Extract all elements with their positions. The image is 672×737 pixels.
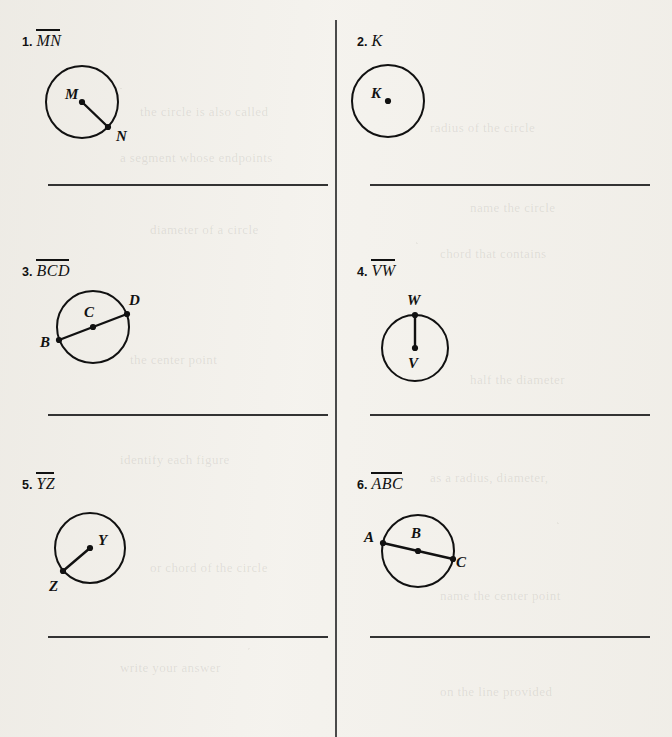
segment-name: YZ (36, 475, 55, 492)
point-label-B: B (39, 334, 50, 350)
circle-figure-5: YZ (30, 503, 165, 615)
segment-name: BCD (36, 262, 70, 279)
point-dot-Z (60, 568, 66, 574)
showthrough-text: chord that contains (440, 246, 547, 262)
point-label-K: K (370, 85, 382, 101)
problem-label-4: 4.VW (357, 262, 396, 280)
point-dot-A (380, 540, 386, 546)
point-dot-M (79, 99, 85, 105)
answer-line-4[interactable] (370, 414, 650, 416)
point-label-Y: Y (98, 532, 109, 548)
showthrough-text: write your answer (120, 660, 221, 676)
point-label-M: M (64, 86, 79, 102)
problem-label-5: 5.YZ (22, 475, 55, 493)
point-label-B: B (410, 525, 421, 541)
showthrough-text: name the circle (470, 200, 555, 216)
showthrough-text: identify each figure (120, 452, 230, 468)
problem-number: 1. (22, 35, 32, 49)
point-dot-D (124, 311, 130, 317)
answer-line-1[interactable] (48, 184, 328, 186)
point-dot-Y (87, 545, 93, 551)
segment-name: VW (371, 262, 395, 279)
answer-line-5[interactable] (48, 636, 328, 638)
point-dot-W (412, 312, 418, 318)
showthrough-text: as a radius, diameter, (430, 470, 548, 486)
problem-number: 2. (357, 35, 367, 49)
circle-figure-1: MN (30, 55, 160, 165)
point-label-Z: Z (48, 578, 58, 594)
circle-figure-3: BCD (30, 285, 170, 397)
point-dot-V (412, 345, 418, 351)
problem-label-3: 3.BCD (22, 262, 70, 280)
point-dot-K (385, 98, 391, 104)
point-label-W: W (407, 292, 422, 308)
showthrough-text: diameter of a circle (150, 222, 259, 238)
circle-figure-2: K (350, 55, 480, 165)
point-label-D: D (128, 292, 140, 308)
point-dot-B (56, 337, 62, 343)
answer-line-2[interactable] (370, 184, 650, 186)
problem-label-2: 2.K (357, 32, 383, 50)
point-dot-B (415, 548, 421, 554)
circle-figure-6: ABC (350, 505, 490, 617)
point-label-C: C (456, 554, 467, 570)
answer-line-6[interactable] (370, 636, 650, 638)
column-divider (335, 20, 337, 737)
showthrough-text: or chord of the circle (150, 560, 268, 576)
problem-label-6: 6.ABC (357, 475, 403, 493)
point-label-V: V (408, 355, 420, 371)
segment-line (63, 548, 90, 571)
showthrough-text: on the line provided (440, 684, 552, 700)
point-dot-N (105, 124, 111, 130)
circle-name: K (371, 32, 382, 49)
point-label-N: N (115, 128, 128, 144)
segment-line (82, 102, 108, 127)
segment-name: MN (36, 32, 61, 49)
point-label-A: A (363, 529, 374, 545)
segment-name: ABC (371, 475, 403, 492)
worksheet-page: the circle is also calledradius of the c… (0, 0, 672, 737)
problem-number: 3. (22, 265, 32, 279)
point-label-C: C (84, 304, 95, 320)
circle-figure-4: WV (350, 288, 485, 403)
problem-number: 6. (357, 478, 367, 492)
problem-number: 5. (22, 478, 32, 492)
problem-label-1: 1.MN (22, 32, 61, 50)
point-dot-C (90, 324, 96, 330)
problem-number: 4. (357, 265, 367, 279)
answer-line-3[interactable] (48, 414, 328, 416)
